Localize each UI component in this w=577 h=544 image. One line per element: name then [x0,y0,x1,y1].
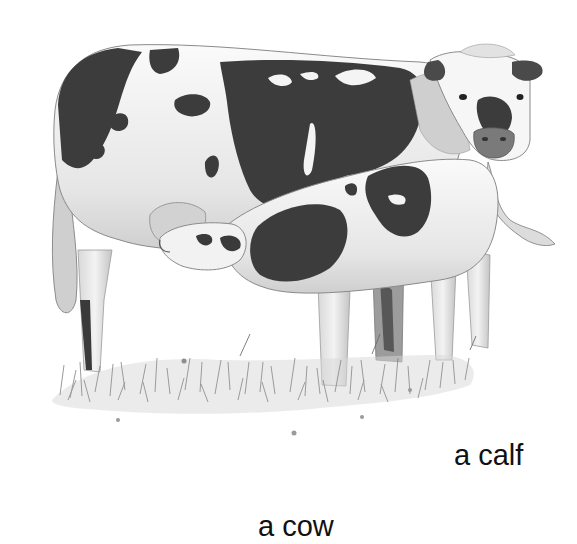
calf-head [159,223,246,270]
cow-label: a cow [258,512,334,541]
grass [52,334,476,436]
page: a calf a cow [0,0,577,544]
calf-label: a calf [454,441,523,470]
